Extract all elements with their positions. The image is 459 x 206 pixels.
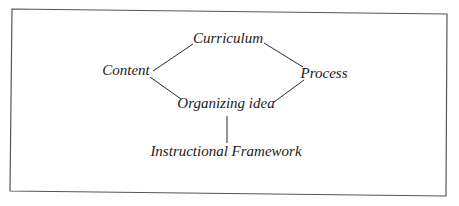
concept-diagram: Curriculum Content Process Organizing id…	[0, 0, 459, 206]
edge-organizing-idea-process	[274, 80, 304, 102]
node-instructional-framework: Instructional Framework	[149, 143, 302, 159]
nodes: Curriculum Content Process Organizing id…	[102, 30, 347, 159]
node-process: Process	[300, 65, 348, 81]
node-organizing-idea: Organizing idea	[177, 95, 274, 111]
edges	[150, 43, 304, 143]
edge-curriculum-process	[264, 43, 303, 67]
edge-content-curriculum	[153, 44, 193, 71]
node-content: Content	[102, 62, 150, 78]
node-curriculum: Curriculum	[193, 30, 263, 46]
